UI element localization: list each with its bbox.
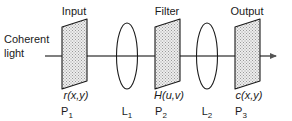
input-plane-p1: [62, 19, 87, 89]
filter-plane-p2: [155, 19, 180, 89]
top-label-output: Output: [230, 5, 263, 18]
function-label-input: r(x,y): [63, 89, 88, 102]
hatched-plane-icon: [235, 19, 260, 89]
plane-id-p1-subscript: 1: [68, 111, 72, 120]
hatched-plane-icon: [62, 19, 87, 89]
plane-id-p1: P1: [61, 105, 73, 121]
top-label-input: Input: [62, 5, 86, 18]
coherent-light-label-line2: light: [4, 47, 24, 60]
coherent-light-label-line1: Coherent: [4, 33, 49, 46]
plane-id-p3: P3: [235, 105, 247, 121]
plane-id-p2-subscript: 2: [162, 111, 166, 120]
diagram-canvas: [0, 0, 292, 121]
top-label-filter: Filter: [155, 5, 179, 18]
function-label-filter: H(u,v): [154, 89, 184, 102]
function-label-output: c(x,y): [236, 89, 263, 102]
lens-id-l2: L2: [202, 105, 213, 121]
optical-system-diagram: Coherent light Input Filter Output r(x,y…: [0, 0, 292, 121]
hatched-plane-icon: [155, 19, 180, 89]
plane-id-p3-subscript: 3: [242, 111, 246, 120]
plane-id-p2: P2: [155, 105, 167, 121]
lens-id-l2-subscript: 2: [208, 111, 212, 120]
lens-id-l1: L1: [122, 105, 133, 121]
lens-id-l1-subscript: 1: [128, 111, 132, 120]
output-plane-p3: [235, 19, 260, 89]
